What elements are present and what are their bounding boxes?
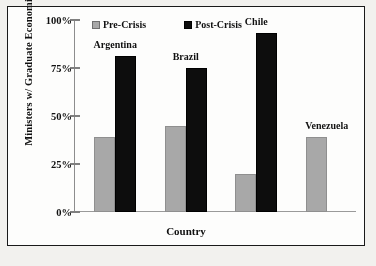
bar-group-venezuela [306, 20, 348, 212]
x-axis-title: Country [8, 225, 364, 237]
chart-frame: Ministers w/ Graduate Economics Degrees … [7, 6, 365, 246]
y-tick-label-75: 75% [51, 63, 72, 74]
group-label-venezuela: Venezuela [305, 120, 348, 131]
y-tick-label-100: 100% [46, 15, 72, 26]
bar-brazil-post-crisis[interactable] [186, 68, 207, 212]
bar-argentina-pre-crisis[interactable] [94, 137, 115, 212]
y-tick-label-0: 0% [56, 207, 72, 218]
figure-page: Ministers w/ Graduate Economics Degrees … [0, 0, 376, 266]
bar-chile-pre-crisis[interactable] [235, 174, 256, 212]
bar-chile-post-crisis[interactable] [256, 33, 277, 212]
bar-argentina-post-crisis[interactable] [115, 56, 136, 212]
bar-brazil-pre-crisis[interactable] [165, 126, 186, 212]
bar-group-brazil [165, 20, 207, 212]
bar-venezuela-pre-crisis[interactable] [306, 137, 327, 212]
group-label-argentina: Argentina [94, 39, 137, 50]
y-tick-label-50: 50% [51, 111, 72, 122]
plot-area: 0%25%50%75%100% ArgentinaBrazilChileVene… [74, 20, 356, 212]
y-axis-title: Ministers w/ Graduate Economics Degrees [23, 0, 34, 149]
bar-group-chile [235, 20, 277, 212]
y-tick-label-25: 25% [51, 159, 72, 170]
group-label-chile: Chile [245, 16, 268, 27]
group-label-brazil: Brazil [173, 51, 199, 62]
